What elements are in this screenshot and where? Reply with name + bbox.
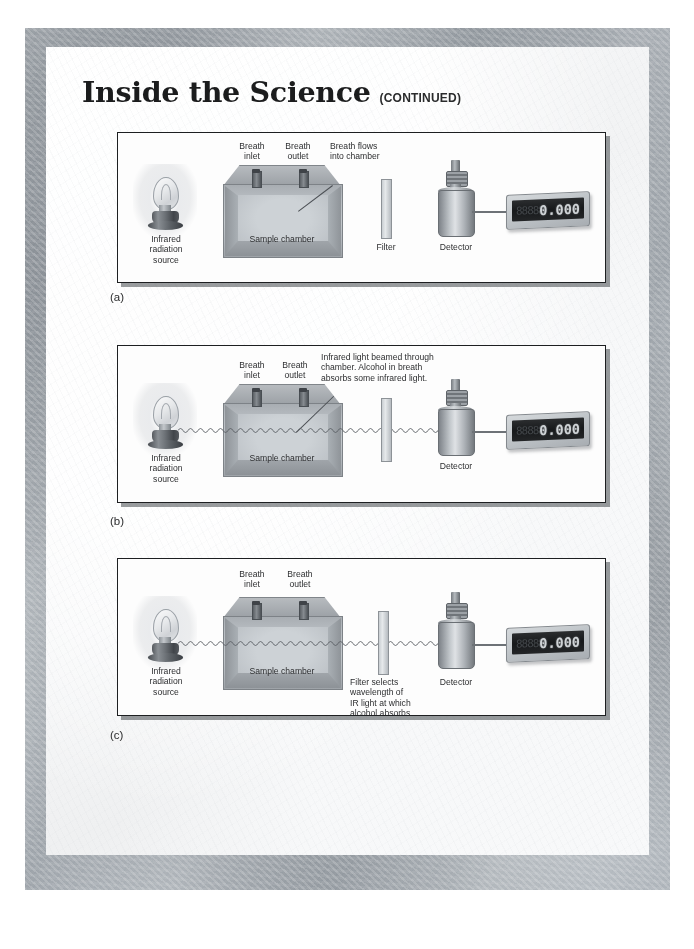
caption-breath-inlet: Breath inlet <box>225 569 279 590</box>
diagram-panel-c: Infrared radiation source Sample chamber… <box>117 558 606 716</box>
panel-label-a: (a) <box>110 291 124 303</box>
panel-label-c: (c) <box>110 729 123 741</box>
detector-body <box>438 190 475 237</box>
caption-infrared-source: Infrared radiation source <box>128 453 204 484</box>
detector-display-wire <box>472 644 510 646</box>
panel-label-b: (b) <box>110 515 124 527</box>
chamber-top-face <box>223 165 341 186</box>
bulb-foot <box>148 440 183 449</box>
diagram-panel-b: Infrared radiation source Sample chamber… <box>117 345 606 503</box>
bulb-foot <box>148 653 183 662</box>
annotation-breath-flow: Breath flows into chamber <box>330 141 424 162</box>
chamber-top-face <box>223 384 341 405</box>
infrared-source-icon <box>146 394 186 450</box>
caption-sample-chamber: Sample chamber <box>228 453 336 463</box>
breath-outlet-cap <box>299 388 307 392</box>
breath-inlet-cap <box>252 388 260 392</box>
bulb-filament <box>161 184 171 200</box>
display-reading: 0.000 <box>539 633 580 651</box>
infrared-source-icon <box>146 175 186 231</box>
breath-inlet-port <box>252 390 262 407</box>
breath-outlet-port <box>299 171 309 188</box>
detector-display-wire <box>472 211 510 213</box>
chamber-body <box>223 403 343 477</box>
display-screen: 88888 0.000 <box>512 197 584 221</box>
page-title-main: Inside the Science <box>82 75 371 109</box>
diagram-panel-b-content: Infrared radiation source Sample chamber… <box>118 346 605 502</box>
breath-outlet-cap <box>299 601 307 605</box>
caption-filter: Filter <box>356 242 416 252</box>
caption-sample-chamber: Sample chamber <box>228 234 336 244</box>
breath-inlet-port <box>252 603 262 620</box>
caption-detector: Detector <box>425 461 487 471</box>
caption-breath-outlet: Breath outlet <box>271 141 325 162</box>
display-reading: 0.000 <box>539 200 580 218</box>
detector-display-wire <box>472 431 510 433</box>
caption-breath-outlet: Breath outlet <box>269 360 321 381</box>
breath-outlet-port <box>299 390 309 407</box>
breath-outlet-cap <box>299 169 307 173</box>
infrared-source-icon <box>146 607 186 663</box>
bulb-foot <box>148 221 183 230</box>
detector-body <box>438 622 475 669</box>
detector-icon <box>438 592 473 668</box>
caption-breath-outlet: Breath outlet <box>273 569 327 590</box>
detector-body <box>438 409 475 456</box>
diagram-panel-a: Infrared radiation source Sample chamber… <box>117 132 606 283</box>
filter-icon <box>381 179 392 239</box>
breath-inlet-port <box>252 171 262 188</box>
bulb-filament <box>161 403 171 419</box>
chamber-body <box>223 616 343 690</box>
diagram-panel-a-content: Infrared radiation source Sample chamber… <box>118 133 605 282</box>
display-reading: 0.000 <box>539 420 580 438</box>
caption-infrared-source: Infrared radiation source <box>128 234 204 265</box>
ir-beam-wave <box>178 426 443 435</box>
detector-icon <box>438 160 473 236</box>
bulb-filament <box>161 616 171 632</box>
caption-infrared-source: Infrared radiation source <box>128 666 204 697</box>
breathalyzer-display: 88888 0.000 <box>506 624 590 663</box>
breathalyzer-display: 88888 0.000 <box>506 411 590 450</box>
detector-icon <box>438 379 473 455</box>
ir-beam-wave <box>178 639 443 648</box>
chamber-top-face <box>223 597 341 618</box>
page-title: Inside the Science (CONTINUED) <box>82 75 461 109</box>
breathalyzer-display: 88888 0.000 <box>506 191 590 230</box>
caption-detector: Detector <box>425 677 487 687</box>
page-root: Inside the Science (CONTINUED) Infrared … <box>0 0 694 949</box>
display-screen: 88888 0.000 <box>512 417 584 441</box>
chamber-body <box>223 184 343 258</box>
display-screen: 88888 0.000 <box>512 630 584 654</box>
breath-outlet-port <box>299 603 309 620</box>
filter-icon <box>378 611 389 675</box>
page-title-continued: (CONTINUED) <box>380 91 462 105</box>
filter-icon <box>381 398 392 462</box>
caption-detector: Detector <box>425 242 487 252</box>
diagram-panel-c-content: Infrared radiation source Sample chamber… <box>118 559 605 715</box>
breath-inlet-cap <box>252 169 260 173</box>
breath-inlet-cap <box>252 601 260 605</box>
caption-sample-chamber: Sample chamber <box>228 666 336 676</box>
